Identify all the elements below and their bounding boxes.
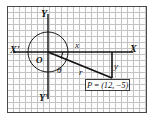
origin-label: O <box>36 56 43 65</box>
radius-label: r <box>79 68 83 77</box>
diagram-vectors <box>0 0 157 121</box>
x-axis-label: X <box>130 44 137 54</box>
coordinate-diagram: Y Y' X' X O x y r θ P = (12, −5) <box>0 0 157 121</box>
x-negative-axis-label: X' <box>10 45 19 55</box>
angle-label: θ <box>57 66 61 75</box>
y-negative-axis-label: Y' <box>39 93 48 103</box>
vertical-leg-label: y <box>114 62 118 71</box>
y-axis-label: Y <box>41 9 47 19</box>
horizontal-leg-label: x <box>75 41 79 50</box>
point-p-label: P = (12, −5) <box>85 79 130 91</box>
